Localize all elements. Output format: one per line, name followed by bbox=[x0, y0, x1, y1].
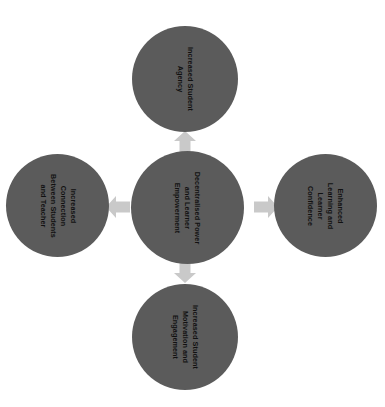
node-enhanced-learning[interactable]: Enhanced Learning and Learner Confidence bbox=[274, 154, 377, 257]
node-center-label: Decentralised Power and Learner Empowerm… bbox=[172, 171, 202, 244]
node-left-label: Increased Connection Between Students an… bbox=[38, 174, 78, 238]
node-bottom-label: Increased Student Motivation and Engagem… bbox=[170, 305, 200, 369]
arrow-left-icon bbox=[106, 196, 130, 218]
diagram-canvas: Increased Student Agency Increased Conne… bbox=[0, 0, 385, 407]
node-increased-motivation[interactable]: Increased Student Motivation and Engagem… bbox=[132, 284, 238, 390]
node-increased-connection[interactable]: Increased Connection Between Students an… bbox=[6, 154, 109, 257]
node-increased-student-agency[interactable]: Increased Student Agency bbox=[132, 26, 238, 132]
node-right-label: Enhanced Learning and Learner Confidence bbox=[305, 182, 345, 228]
node-top-label: Increased Student Agency bbox=[175, 47, 195, 111]
node-decentralised-power[interactable]: Decentralised Power and Learner Empowerm… bbox=[131, 151, 244, 264]
